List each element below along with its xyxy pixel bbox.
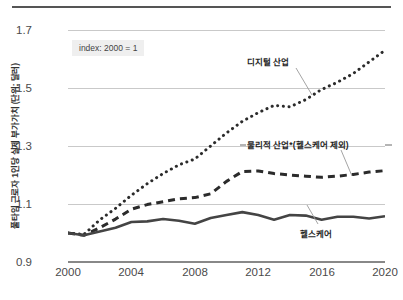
header-divider bbox=[12, 6, 391, 8]
x-tick-label-2016: 2016 bbox=[294, 266, 350, 278]
x-tick-label-2008: 2008 bbox=[167, 266, 223, 278]
series-label-digital: 디지털 산업 bbox=[247, 55, 289, 67]
y-tick-label-1.3: 1.3 bbox=[0, 140, 32, 152]
series-label-physical: 물리적 산업*(헬스케어 제외) bbox=[247, 138, 349, 150]
y-tick-label-1.5: 1.5 bbox=[0, 82, 32, 94]
x-tick-label-2020: 2020 bbox=[357, 266, 403, 278]
chart-figure: 풀타임 근로자 1인당 실제 부가가치 (단위: 달러) 1.7 1.5 1.3… bbox=[0, 0, 403, 300]
x-tick-label-2000: 2000 bbox=[40, 266, 96, 278]
x-tick-label-2004: 2004 bbox=[103, 266, 159, 278]
series-line-2 bbox=[68, 212, 385, 235]
y-tick-label-1.1: 1.1 bbox=[0, 198, 32, 210]
x-tick-label-2012: 2012 bbox=[230, 266, 286, 278]
y-tick-label-1.7: 1.7 bbox=[0, 24, 32, 36]
y-tick-label-0.9: 0.9 bbox=[0, 256, 32, 268]
series-label-healthcare: 헬스케어 bbox=[300, 227, 332, 239]
index-note: index: 2000 = 1 bbox=[72, 40, 144, 56]
series-line-1 bbox=[68, 171, 385, 236]
